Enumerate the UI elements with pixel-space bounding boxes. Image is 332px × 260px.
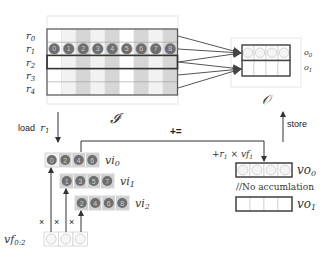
svg-text:6: 6 xyxy=(139,45,143,52)
svg-text:7: 7 xyxy=(105,178,109,185)
load-label: load r1 xyxy=(18,122,50,135)
vector-input-vi0: 0246vi0 xyxy=(45,153,120,168)
r1-element: 8 xyxy=(165,43,176,54)
r1-element: 2 xyxy=(78,43,89,54)
accumulate-label: += xyxy=(170,126,182,137)
r1-element: 0 xyxy=(49,43,60,54)
svg-text:2: 2 xyxy=(81,45,85,52)
svg-text:4: 4 xyxy=(110,45,114,52)
svg-text:3: 3 xyxy=(96,45,100,52)
svg-text:4: 4 xyxy=(93,200,97,207)
grid-column xyxy=(163,29,178,95)
times-icon: × xyxy=(54,217,59,227)
grid-column xyxy=(91,29,106,95)
output-label-o0: o0 xyxy=(304,48,313,58)
grid-column xyxy=(47,29,62,95)
grid-column xyxy=(120,29,135,95)
vector-input-vi2: 2468vi2 xyxy=(75,196,150,211)
svg-text:4: 4 xyxy=(77,157,81,164)
times-icon: × xyxy=(39,217,44,227)
svg-text:8: 8 xyxy=(120,200,124,207)
svg-text:5: 5 xyxy=(125,45,129,52)
output-label-o1: o1 xyxy=(304,63,312,73)
svg-text:0: 0 xyxy=(50,157,54,164)
svg-text:1: 1 xyxy=(67,45,71,52)
input-grid: 012345678 xyxy=(47,29,178,95)
store-label: store xyxy=(287,119,307,129)
r1-element: 4 xyxy=(107,43,118,54)
svg-text:3: 3 xyxy=(78,178,82,185)
svg-text:2: 2 xyxy=(63,157,67,164)
input-symbol: 𝓘 xyxy=(110,110,124,126)
r1-element: 3 xyxy=(92,43,103,54)
row-label-r2: r2 xyxy=(26,57,36,70)
times-icon: × xyxy=(69,217,74,227)
row-label-r3: r3 xyxy=(26,70,36,83)
svg-text:8: 8 xyxy=(168,45,172,52)
convolution-diagram: 012345678 r0r1r2r3r4 𝓘 o0o1 𝒪 load r1 st… xyxy=(0,0,332,260)
svg-text:2: 2 xyxy=(80,200,84,207)
svg-text:6: 6 xyxy=(90,157,94,164)
row-label-r0: r0 xyxy=(26,30,36,43)
r1-element: 5 xyxy=(121,43,132,54)
row-label-r4: r4 xyxy=(26,83,35,96)
filter-vector-label: vf0:2 xyxy=(4,233,26,247)
vector-input-label: vi0 xyxy=(105,154,120,168)
svg-text:5: 5 xyxy=(92,178,96,185)
row-labels: r0r1r2r3r4 xyxy=(26,30,36,96)
vector-input-label: vi1 xyxy=(120,175,135,189)
connection-lines xyxy=(178,36,241,88)
r1-element: 1 xyxy=(63,43,74,54)
vector-output-vo1: vo1 xyxy=(236,197,316,212)
grid-column xyxy=(62,29,77,95)
output-grid xyxy=(242,45,290,76)
output-symbol: 𝒪 xyxy=(262,92,274,107)
grid-column xyxy=(149,29,164,95)
row-label-r1: r1 xyxy=(26,43,35,56)
vector-input-label: vi2 xyxy=(135,197,150,211)
svg-text:0: 0 xyxy=(52,45,56,52)
no-accumulation-note: //No accumlation xyxy=(236,182,314,192)
vector-input-vi1: 1357vi1 xyxy=(60,174,135,189)
grid-column xyxy=(134,29,149,95)
vector-output-label: vo0 xyxy=(297,163,316,178)
accumulate-expression: +r1 × vf1 xyxy=(212,149,253,160)
r1-element: 6 xyxy=(136,43,147,54)
r1-element: 7 xyxy=(150,43,161,54)
vector-output-label: vo1 xyxy=(297,197,316,212)
svg-text:7: 7 xyxy=(154,45,158,52)
grid-column xyxy=(76,29,91,95)
vector-output-vo0: vo0 xyxy=(236,163,316,178)
output-labels: o0o1 xyxy=(304,48,313,74)
grid-column xyxy=(105,29,120,95)
svg-text:1: 1 xyxy=(65,178,69,185)
svg-text:6: 6 xyxy=(107,200,111,207)
vector-inputs: 0246vi01357vi12468vi2 xyxy=(45,153,150,211)
